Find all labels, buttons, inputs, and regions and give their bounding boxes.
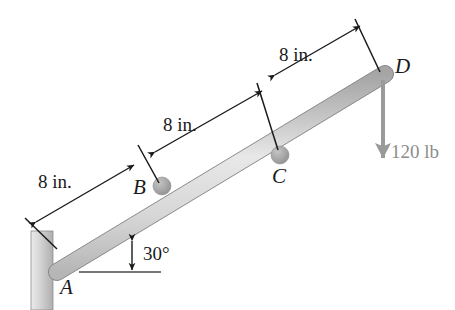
engineering-diagram: A B C D 8 in. 8 in. 8 in. 30° 120 lb (0, 0, 455, 310)
point-label-a: A (60, 277, 73, 298)
angle-label: 30° (143, 244, 170, 263)
collar-c (271, 146, 289, 164)
dimension-label-cd: 8 in. (279, 45, 313, 64)
force-label: 120 lb (391, 142, 439, 161)
dimension-label-ab: 8 in. (38, 172, 72, 191)
dimension-label-bc: 8 in. (163, 115, 197, 134)
point-label-d: D (395, 56, 410, 77)
collar-b (153, 177, 171, 195)
bar-ad (48, 65, 393, 280)
point-label-c: C (272, 166, 286, 187)
diagram-canvas (0, 0, 455, 310)
point-label-b: B (133, 177, 146, 198)
